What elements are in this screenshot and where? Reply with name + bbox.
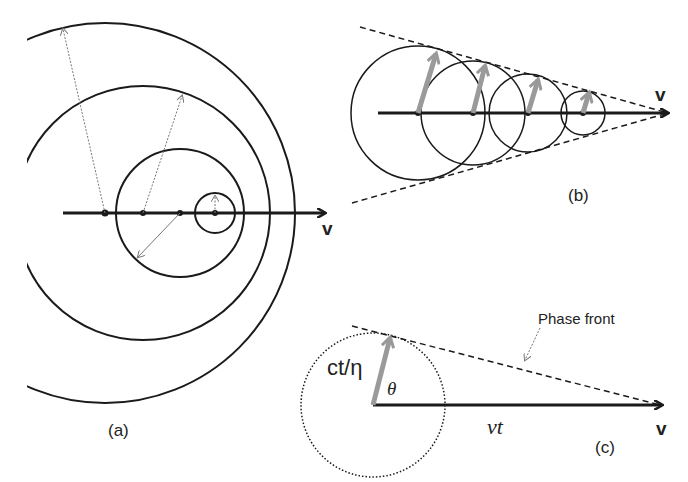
wave-vector-b4 [583, 93, 589, 113]
velocity-label-a: v [322, 218, 333, 240]
cone-lower [352, 113, 668, 203]
phase-front-annotation: Phase front [538, 310, 615, 327]
cherenkov-diagram [0, 0, 688, 482]
wave-vector-b3 [528, 80, 538, 113]
angle-label: θ [387, 378, 396, 400]
velocity-label-b: v [655, 84, 666, 106]
velocity-label-c: v [656, 418, 667, 440]
panel-b [351, 27, 668, 203]
cone-upper [360, 27, 668, 113]
panel-a [0, 23, 325, 403]
radius-arrow-1 [63, 29, 105, 213]
caption-b: (b) [568, 186, 589, 206]
radius-arrow-2 [143, 96, 182, 213]
wave-vector-b2 [473, 66, 485, 113]
radius-arrow-3 [138, 213, 180, 257]
wave-vector-b1 [418, 54, 436, 113]
caption-c: (c) [595, 438, 615, 458]
phase-front-pointer [525, 328, 540, 360]
radius-label: ct/η [327, 355, 362, 381]
caption-a: (a) [108, 421, 129, 441]
distance-label: vt [487, 414, 503, 440]
